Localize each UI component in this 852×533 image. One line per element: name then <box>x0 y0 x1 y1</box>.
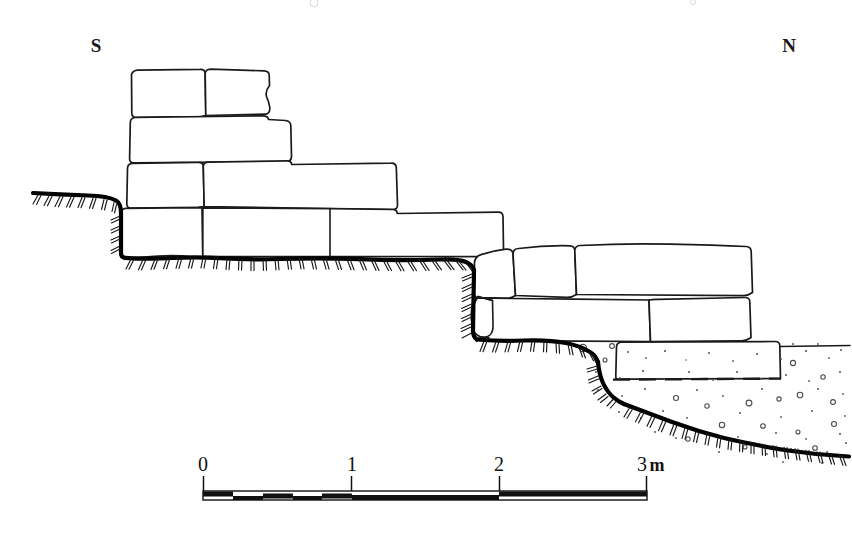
course-north-upper <box>474 244 752 299</box>
course-north-basal <box>613 341 781 379</box>
scale-segment <box>263 494 293 499</box>
hachure-group <box>480 341 596 363</box>
stone-block <box>203 161 397 210</box>
course-north-lower <box>474 297 751 341</box>
ground-face-south-vertical <box>111 213 125 258</box>
scale-segment <box>322 494 352 499</box>
stone-block <box>474 249 515 298</box>
cardinal-label-south: S <box>91 35 102 56</box>
scale-label-0: 0 <box>198 453 208 475</box>
stone-block <box>132 69 206 117</box>
scale-label-3: 3 <box>637 453 647 475</box>
cardinal-label-north: N <box>782 35 796 56</box>
course-5-top <box>132 69 270 117</box>
stone-block <box>203 208 504 257</box>
scale-segment <box>293 496 322 500</box>
scale-segment <box>352 495 499 500</box>
ground-surface-south-upper <box>33 193 121 213</box>
scale-segment <box>203 492 233 497</box>
stone-block <box>205 69 270 115</box>
stone-block <box>513 246 577 298</box>
section-drawing-canvas: S N 0 1 <box>0 0 852 533</box>
stone-block <box>474 298 651 342</box>
scale-segment <box>233 496 263 500</box>
stone-block <box>120 208 202 258</box>
ground-line <box>33 193 121 213</box>
ground-face-central-step <box>461 270 477 340</box>
stone-block <box>575 244 753 296</box>
hachure-group <box>111 216 120 254</box>
course-4 <box>130 116 292 163</box>
ground-surface-north-mid <box>477 340 598 363</box>
scale-label-2: 2 <box>494 453 504 475</box>
stone-block <box>616 341 781 379</box>
course-2 <box>120 208 503 258</box>
figure-root: S N 0 1 <box>0 0 852 533</box>
stone-block <box>127 162 204 208</box>
scale-label-1: 1 <box>347 453 357 475</box>
packing-stone-facet <box>479 337 489 338</box>
stone-block <box>130 116 292 163</box>
ground-line <box>624 404 849 457</box>
fill-upper-boundary <box>781 346 851 347</box>
scale-bar: 0 1 2 3 m <box>198 453 665 500</box>
ground-surface-south-lower <box>125 257 474 271</box>
scale-segment <box>499 492 647 497</box>
hachure-group <box>461 274 472 338</box>
course-3 <box>127 161 398 210</box>
scan-artifact-group <box>310 0 696 7</box>
scale-unit-label: m <box>650 455 665 475</box>
stone-block <box>649 297 751 341</box>
